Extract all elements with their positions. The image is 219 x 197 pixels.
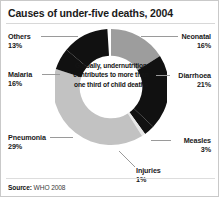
title-divider [6, 23, 215, 24]
leader-line-diarrhoea [156, 75, 170, 76]
source-value: WHO 2008 [34, 184, 66, 191]
chart-title: Causes of under-five deaths, 2004 [8, 7, 173, 19]
label-diarrhoea-value: 21% [178, 80, 211, 89]
leader-line-pneumonia [50, 137, 73, 138]
donut-chart: Globally, undernutrition contributes to … [55, 25, 167, 167]
label-others: Others 13% [8, 32, 31, 51]
label-injuries-value: 1% [136, 175, 161, 184]
source-divider [6, 178, 215, 179]
source-note: Source: WHO 2008 [8, 184, 65, 191]
label-diarrhoea-name: Diarrhoea [178, 71, 211, 80]
label-pneumonia-value: 29% [8, 142, 46, 151]
label-malaria-value: 16% [8, 79, 32, 88]
chart-figure: Causes of under-five deaths, 2004 Glob [0, 0, 219, 197]
label-others-name: Others [8, 32, 31, 41]
label-diarrhoea: Diarrhoea 21% [178, 71, 211, 90]
label-pneumonia-name: Pneumonia [8, 133, 46, 142]
leader-line-others [41, 36, 78, 37]
leader-line-malaria [42, 74, 60, 75]
label-malaria: Malaria 16% [8, 70, 32, 89]
source-label: Source: [8, 184, 32, 191]
label-neonatal: Neonatal 16% [181, 32, 211, 51]
donut-svg [55, 25, 167, 167]
leader-line-neonatal [141, 36, 178, 37]
label-others-value: 13% [8, 41, 31, 50]
leader-line-measles [151, 140, 171, 141]
label-malaria-name: Malaria [8, 70, 32, 79]
center-annotation: Globally, undernutrition contributes to … [73, 61, 149, 89]
label-pneumonia: Pneumonia 29% [8, 133, 46, 152]
label-neonatal-name: Neonatal [181, 32, 211, 41]
leader-line-injuries [119, 151, 141, 171]
label-measles-value: 3% [184, 145, 211, 154]
label-neonatal-value: 16% [181, 41, 211, 50]
label-measles: Measles 3% [184, 136, 211, 155]
label-measles-name: Measles [184, 136, 211, 145]
